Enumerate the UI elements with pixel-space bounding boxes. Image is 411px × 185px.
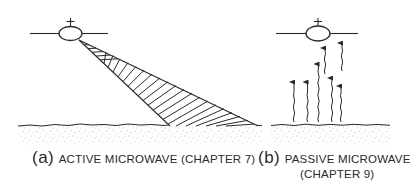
radar-beam [79, 40, 258, 126]
satellite-a [30, 18, 108, 41]
panel-b-passive [271, 18, 391, 147]
wavy-arrow-4 [324, 48, 325, 74]
ground-surface-a [18, 124, 264, 147]
ground-surface-b [271, 124, 391, 147]
wavy-arrow-2 [307, 82, 308, 122]
panel-tag-b: (b) [258, 148, 280, 167]
panel-label-b-line1: PASSIVE MICROWAVE [285, 153, 411, 165]
panel-a-active [18, 18, 264, 147]
emission-arrows [293, 43, 342, 122]
wavy-arrow-5 [331, 78, 332, 122]
caption-passive-microwave: (b) PASSIVE MICROWAVE [258, 149, 411, 166]
caption-active-microwave: (a) ACTIVE MICROWAVE (CHAPTER 7) [32, 149, 255, 166]
wavy-arrow-1 [293, 82, 294, 122]
wavy-arrow-6 [341, 43, 342, 71]
satellite-b [276, 18, 358, 41]
panel-label-a: ACTIVE MICROWAVE (CHAPTER 7) [59, 153, 256, 165]
panel-label-b-line2: (CHAPTER 9) [300, 168, 374, 180]
wavy-arrow-7 [340, 86, 341, 122]
wavy-arrow-3 [318, 64, 319, 122]
panel-tag-a: (a) [32, 148, 54, 167]
